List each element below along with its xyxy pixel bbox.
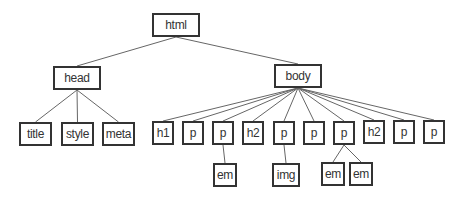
- node-img: img: [272, 163, 300, 187]
- dom-tree-diagram: htmlheadbodytitlestylemetah1pph2ppph2ppe…: [0, 0, 466, 206]
- node-label: h2: [247, 126, 260, 140]
- node-style: style: [61, 122, 94, 146]
- edge-p3-img: [284, 145, 286, 163]
- edge-body-p7: [298, 88, 434, 120]
- edge-head-title: [36, 90, 78, 122]
- edge-body-p4: [298, 88, 314, 121]
- node-head: head: [53, 66, 101, 90]
- node-h1: h1: [152, 121, 174, 145]
- edge-p5-em2: [333, 145, 344, 162]
- node-em2: em: [321, 162, 345, 186]
- node-html: html: [152, 13, 200, 37]
- edge-p2-em1: [223, 145, 225, 163]
- node-label: title: [27, 127, 44, 141]
- node-em1: em: [213, 163, 237, 187]
- node-p4: p: [303, 121, 325, 145]
- node-meta: meta: [102, 122, 135, 146]
- node-label: style: [66, 127, 89, 141]
- edge-body-p6: [298, 88, 404, 120]
- edge-html-body: [176, 37, 298, 64]
- node-body: body: [274, 64, 322, 88]
- node-p6: p: [393, 120, 415, 144]
- edge-head-style: [77, 90, 78, 122]
- edge-p5-em3: [344, 145, 361, 162]
- node-label: p: [281, 126, 287, 140]
- node-label: p: [190, 126, 196, 140]
- node-p2: p: [212, 121, 234, 145]
- node-h2b: h2: [363, 120, 385, 144]
- node-h2a: h2: [242, 121, 264, 145]
- node-label: p: [431, 125, 437, 139]
- node-label: p: [341, 126, 347, 140]
- node-p7: p: [423, 120, 445, 144]
- node-label: h1: [157, 126, 170, 140]
- edge-body-h1: [163, 88, 298, 121]
- node-label: html: [165, 18, 186, 32]
- node-p1: p: [182, 121, 204, 145]
- node-em3: em: [349, 162, 373, 186]
- node-label: p: [311, 126, 317, 140]
- node-p5: p: [333, 121, 355, 145]
- node-title: title: [19, 122, 52, 146]
- node-label: meta: [106, 127, 131, 141]
- edge-body-p1: [193, 88, 298, 121]
- node-label: em: [217, 168, 233, 182]
- node-p3: p: [273, 121, 295, 145]
- edge-head-meta: [77, 90, 119, 122]
- node-label: em: [325, 167, 341, 181]
- node-label: body: [286, 69, 311, 83]
- node-label: h2: [368, 125, 381, 139]
- edge-html-head: [77, 37, 176, 66]
- node-label: em: [353, 167, 369, 181]
- node-label: img: [277, 168, 295, 182]
- node-label: head: [64, 71, 90, 85]
- node-label: p: [220, 126, 226, 140]
- node-label: p: [401, 125, 407, 139]
